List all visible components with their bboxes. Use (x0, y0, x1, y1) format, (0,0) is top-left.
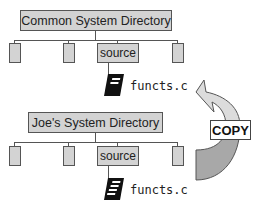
copy-label: COPY (210, 120, 251, 140)
bottom-source-folder: source (97, 146, 139, 166)
bottom-folder-4 (172, 146, 184, 166)
bottom-file-icon (104, 178, 126, 200)
bottom-branch-line (14, 142, 178, 143)
top-folder-1 (9, 43, 21, 63)
bottom-folder-2 (63, 146, 75, 166)
top-trunk-line (95, 31, 96, 40)
bottom-file-name: functs.c (130, 183, 188, 197)
top-folder-4 (172, 43, 184, 63)
top-branch-line (14, 40, 178, 41)
top-file-icon (104, 74, 126, 96)
bottom-directory-title: Joe's System Directory (28, 112, 163, 133)
bottom-folder-1 (9, 146, 21, 166)
top-folder-2 (63, 43, 75, 63)
top-file-name: functs.c (130, 79, 188, 93)
top-source-folder: source (97, 43, 139, 63)
top-directory-title: Common System Directory (20, 10, 172, 31)
bottom-trunk-line (95, 133, 96, 142)
